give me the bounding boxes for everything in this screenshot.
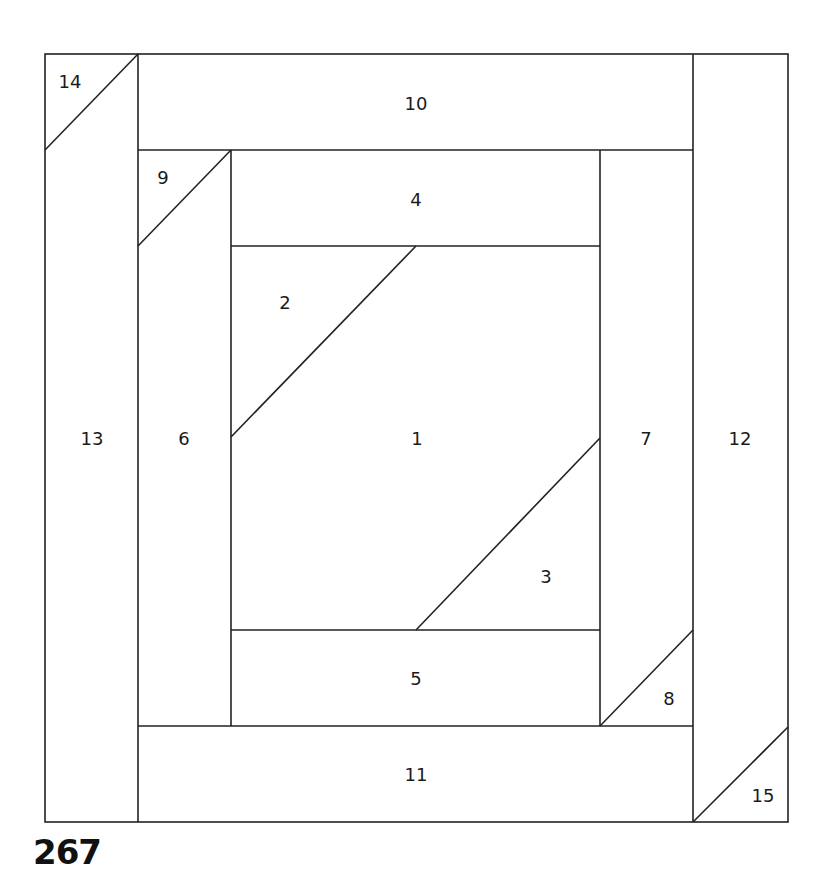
piece-label-2: 2 [279, 292, 290, 313]
piece-label-13: 13 [81, 428, 104, 449]
piece-label-9: 9 [157, 167, 168, 188]
piece-label-12: 12 [729, 428, 752, 449]
diagonal-15 [693, 727, 788, 822]
diagonal-2 [231, 246, 416, 437]
diagonal-3 [416, 438, 600, 630]
piece-label-11: 11 [405, 764, 428, 785]
piece-label-8: 8 [663, 688, 674, 709]
piece-label-10: 10 [405, 93, 428, 114]
diagonal-14 [45, 54, 138, 150]
diagonal-8 [600, 630, 693, 726]
piece-label-3: 3 [540, 566, 551, 587]
piece-label-7: 7 [640, 428, 651, 449]
pattern-number: 267 [33, 832, 101, 872]
piece-label-6: 6 [178, 428, 189, 449]
diagonal-9 [138, 150, 231, 246]
piece-label-15: 15 [752, 785, 775, 806]
piece-label-1: 1 [411, 428, 422, 449]
piece-label-5: 5 [410, 668, 421, 689]
piece-label-14: 14 [59, 71, 82, 92]
piece-label-4: 4 [410, 189, 421, 210]
